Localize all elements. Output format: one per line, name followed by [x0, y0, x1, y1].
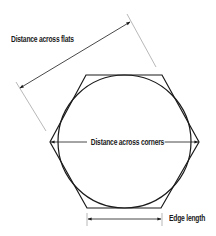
flats-extension-line-upper	[127, 14, 156, 67]
flats-extension-line-lower	[16, 82, 46, 131]
label-edge-length: Edge length	[169, 214, 205, 224]
label-distance-across-flats: Distance across flats	[11, 35, 74, 45]
flats-dimension-arrow	[20, 22, 130, 88]
label-distance-across-corners: Distance across corners	[90, 138, 165, 148]
